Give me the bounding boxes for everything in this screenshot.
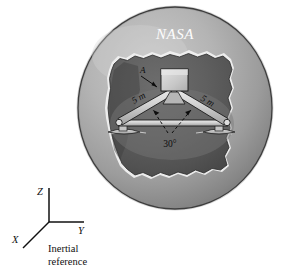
z-axis-label: Z: [37, 186, 43, 197]
payload-box: [161, 69, 188, 91]
inertial-reference-axes: Z Y X Inertial reference: [11, 186, 87, 267]
right-pin-joint: [224, 119, 230, 125]
x-axis-line: [23, 222, 49, 248]
spacecraft-on-planetoid-figure: NASA A: [0, 0, 290, 271]
y-axis-label: Y: [78, 225, 85, 236]
figure-canvas: NASA A: [0, 0, 290, 271]
x-axis-label: X: [11, 234, 19, 245]
truss-bottom-member: [118, 120, 228, 126]
axes-caption-line1: Inertial: [48, 243, 78, 254]
angle-value-label: 30°: [163, 139, 177, 149]
nasa-wordmark: NASA: [155, 26, 194, 42]
left-pin-joint: [116, 119, 122, 125]
point-a-label: A: [139, 65, 146, 75]
payload-box-top-highlight: [161, 69, 188, 75]
axes-caption-line2: reference: [48, 256, 87, 267]
